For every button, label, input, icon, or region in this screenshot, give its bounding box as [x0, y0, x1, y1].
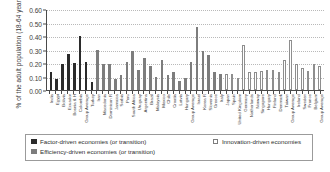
- bar: [260, 71, 263, 90]
- bar: [213, 72, 216, 90]
- x-label-slot: Group Average: [317, 94, 323, 131]
- bar-series: [47, 10, 324, 90]
- chart-figure: % of the adult population (18-64 years) …: [0, 0, 330, 172]
- y-axis-tick-label: 0.40: [29, 34, 42, 41]
- legend-label-factor: Factor-driven economies (or transition): [40, 138, 146, 145]
- bar: [196, 27, 199, 90]
- bar: [172, 72, 175, 90]
- y-axis-tick-label: 0.60: [29, 7, 42, 14]
- bar: [242, 45, 245, 90]
- bar: [167, 75, 170, 90]
- bar: [248, 72, 251, 90]
- bar: [278, 72, 281, 90]
- legend-swatch-efficiency-icon: [31, 149, 37, 155]
- bar: [237, 78, 240, 90]
- bar: [190, 62, 193, 90]
- bar: [55, 79, 58, 90]
- bar: [231, 74, 234, 90]
- bar: [225, 74, 228, 90]
- legend-row-bottom: Efficiency-driven economies (or transiti…: [31, 148, 307, 158]
- legend-label-efficiency: Efficiency-driven economies (or transiti…: [40, 148, 155, 155]
- bar: [301, 68, 304, 90]
- bar: [61, 64, 64, 90]
- x-axis: IndiaEgyptBoliviaEcuadorBosnia & HColomb…: [46, 91, 324, 131]
- bar: [120, 75, 123, 90]
- bar: [318, 66, 321, 90]
- bar: [254, 72, 257, 90]
- bar: [131, 51, 134, 90]
- legend-label-innovation: Innovation-driven economies: [222, 138, 301, 145]
- bar: [283, 60, 286, 90]
- y-axis-tick-label: 0.00: [29, 88, 42, 95]
- bar: [272, 70, 275, 90]
- bar: [149, 66, 152, 90]
- y-axis-tick-label: 0.20: [29, 61, 42, 68]
- bar: [108, 64, 111, 90]
- chart-legend: Factor-driven economies (or transition) …: [25, 134, 313, 161]
- bar: [67, 54, 70, 90]
- bar: [79, 36, 82, 90]
- legend-swatch-innovation-icon: [213, 139, 219, 145]
- bar: [102, 64, 105, 90]
- legend-item-factor-driven: Factor-driven economies (or transition): [31, 138, 146, 145]
- legend-row-top: Factor-driven economies (or transition) …: [31, 138, 307, 148]
- bar: [161, 60, 164, 90]
- bar: [143, 58, 146, 90]
- bar: [289, 40, 292, 90]
- bar: [178, 81, 181, 90]
- bar: [313, 64, 316, 90]
- legend-swatch-factor-icon: [31, 139, 37, 145]
- bar: [85, 62, 88, 90]
- bar: [184, 78, 187, 90]
- y-axis-tick-label: 0.50: [29, 20, 42, 27]
- bar: [137, 70, 140, 90]
- bar: [207, 55, 210, 90]
- bar: [307, 71, 310, 90]
- bar: [114, 79, 117, 90]
- x-axis-labels: IndiaEgyptBoliviaEcuadorBosnia & HColomb…: [46, 94, 324, 131]
- bar-slot: [317, 10, 323, 90]
- bar: [219, 74, 222, 90]
- bar: [155, 77, 158, 91]
- bar: [295, 64, 298, 90]
- bar: [202, 51, 205, 90]
- x-axis-tick-label: Group Average: [320, 94, 325, 123]
- bar: [91, 82, 94, 90]
- bar: [126, 62, 129, 90]
- bar: [73, 63, 76, 90]
- y-axis-tick-label: 0.10: [29, 74, 42, 81]
- bar: [50, 72, 53, 90]
- legend-item-efficiency-driven: Efficiency-driven economies (or transiti…: [31, 148, 155, 155]
- legend-item-innovation-driven: Innovation-driven economies: [213, 138, 307, 145]
- bar: [266, 70, 269, 90]
- plot-area: [46, 10, 324, 91]
- bar: [96, 50, 99, 91]
- y-axis-ticks: 0.000.100.200.300.400.500.60: [0, 10, 46, 91]
- y-axis-tick-label: 0.30: [29, 47, 42, 54]
